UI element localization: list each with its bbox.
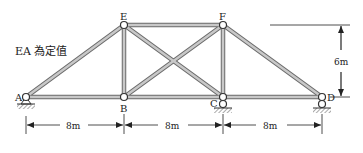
truss-svg: A B C D E F EA 為定值 8m 8m 8m	[0, 0, 363, 153]
joint-f	[220, 22, 227, 29]
node-label-f: F	[219, 11, 226, 22]
joint-b	[121, 94, 128, 101]
span-dimension-ab: 8m	[66, 121, 81, 131]
height-dimension: 6m	[334, 57, 349, 67]
node-label-b: B	[120, 103, 127, 114]
node-label-e: E	[120, 11, 127, 22]
node-label-d: D	[327, 92, 335, 103]
span-dimension-cd: 8m	[263, 121, 278, 131]
joint-d	[319, 94, 326, 101]
ea-constant-note: EA 為定值	[15, 44, 67, 58]
node-label-c: C	[210, 98, 218, 109]
truss-diagram: A B C D E F EA 為定值 8m 8m 8m	[0, 0, 363, 153]
joint-e	[121, 22, 128, 29]
span-dimension-bc: 8m	[165, 121, 180, 131]
node-label-a: A	[14, 92, 23, 103]
joint-a	[23, 94, 30, 101]
truss-members	[26, 25, 322, 97]
joint-c	[220, 94, 227, 101]
